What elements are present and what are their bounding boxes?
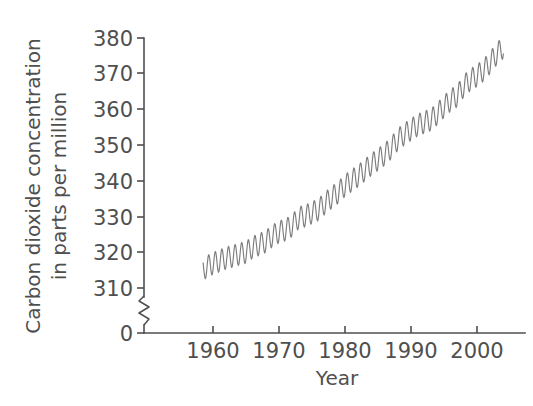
- y-tick-label-360: 360: [93, 98, 133, 122]
- y-tick-label-320: 320: [93, 241, 133, 265]
- y-axis-ticks: [137, 38, 144, 333]
- y-tick-label-310: 310: [93, 277, 133, 301]
- chart-figure: 380 370 360 350 340 330 320 310 0 1960 1…: [0, 0, 533, 406]
- y-tick-label-330: 330: [93, 206, 133, 230]
- x-tick-label-1990: 1990: [384, 339, 437, 363]
- y-tick-label-340: 340: [93, 170, 133, 194]
- x-tick-label-1970: 1970: [252, 339, 305, 363]
- y-axis-break-icon: [139, 296, 149, 325]
- co2-series-line: [203, 41, 503, 279]
- x-axis-ticks: [213, 326, 477, 333]
- y-tick-label-380: 380: [93, 27, 133, 51]
- y-tick-label-370: 370: [93, 62, 133, 86]
- y-axis-title-line-2: in parts per million: [47, 92, 71, 281]
- y-tick-label-0: 0: [120, 322, 133, 346]
- x-tick-label-1980: 1980: [318, 339, 371, 363]
- y-tick-label-350: 350: [93, 134, 133, 158]
- x-tick-label-2000: 2000: [450, 339, 503, 363]
- y-axis-title-line-1: Carbon dioxide concentration: [21, 38, 45, 334]
- x-tick-label-1960: 1960: [186, 339, 239, 363]
- x-axis-title: Year: [315, 366, 359, 390]
- co2-line-chart: 380 370 360 350 340 330 320 310 0 1960 1…: [0, 0, 533, 406]
- y-axis-tick-labels: 380 370 360 350 340 330 320 310 0: [93, 27, 133, 346]
- x-axis-tick-labels: 1960 1970 1980 1990 2000: [186, 339, 503, 363]
